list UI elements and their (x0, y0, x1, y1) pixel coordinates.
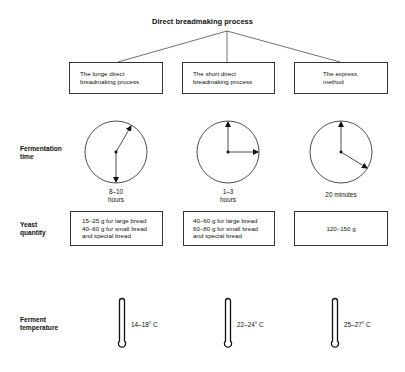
temperature-express: 25–27° C (344, 321, 371, 328)
fermentation-time-short: 1–3 hours (198, 188, 258, 204)
tree-connectors (118, 31, 340, 62)
clock-icon (197, 121, 259, 183)
clock-icon (85, 121, 147, 183)
row-label-line: quantity (20, 229, 46, 237)
row-label-line: temperature (20, 324, 58, 332)
yeast-line: 120–150 g (326, 225, 355, 233)
method-name-line: The longe direct (80, 70, 139, 78)
clock-icon (310, 121, 372, 183)
yeast-line: 40–60 g for large bread (193, 217, 258, 225)
caption-line: hours (198, 196, 258, 204)
caption-line: hours (86, 196, 146, 204)
row-label-fermentation-time: Fermentation time (20, 145, 62, 161)
thermometer-icon (118, 299, 125, 348)
yeast-line: 15–25 g for large bread (82, 217, 147, 225)
row-label-line: Fermentation (20, 145, 62, 153)
method-name-line: breadmaking process (80, 78, 139, 86)
row-label-line: Ferment (20, 316, 58, 324)
yeast-line: and special bread (82, 232, 147, 240)
method-name-line: The express (323, 70, 357, 78)
yeast-box-short: 40–60 g for large bread 60–80 g for smal… (183, 211, 275, 246)
yeast-box-express: 120–150 g (294, 211, 388, 246)
caption-line: 8–10 (86, 188, 146, 196)
caption-line: 1–3 (198, 188, 258, 196)
fermentation-time-express: 20 minutes (306, 191, 376, 199)
thermometer-icon (331, 299, 338, 348)
temperature-short: 22–24° C (237, 321, 264, 328)
yeast-line: 60–80 g for small bread (193, 225, 258, 233)
method-box-short: The short direct breadmaking process (182, 62, 275, 94)
temperature-long: 14–18° C (131, 321, 158, 328)
row-label-yeast-quantity: Yeast quantity (20, 221, 46, 237)
row-label-line: time (20, 153, 62, 161)
caption-line: 20 minutes (306, 191, 376, 199)
method-name-line: method (323, 78, 357, 86)
diagram-graphics (0, 0, 405, 372)
method-name-line: breadmaking process (193, 78, 252, 86)
method-box-long: The longe direct breadmaking process (69, 62, 163, 94)
row-label-line: Yeast (20, 221, 46, 229)
diagram-title: Direct breadmaking process (0, 17, 405, 26)
yeast-box-long: 15–25 g for large bread 40–60 g for smal… (70, 211, 163, 246)
fermentation-time-long: 8–10 hours (86, 188, 146, 204)
thermometer-icon (224, 299, 231, 348)
row-label-ferment-temperature: Ferment temperature (20, 316, 58, 332)
yeast-line: 40–60 g for small bread (82, 225, 147, 233)
method-name-line: The short direct (193, 70, 252, 78)
method-box-express: The express method (294, 62, 388, 94)
yeast-line: and special bread (193, 232, 258, 240)
